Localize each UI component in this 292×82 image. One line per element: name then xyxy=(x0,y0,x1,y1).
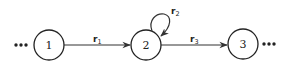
dot-icon xyxy=(19,43,22,46)
edge-r2-label-sub: 2 xyxy=(175,10,179,18)
state-diagram: 1 r1 2 r2 r3 3 xyxy=(0,0,292,82)
edge-1-to-2: r1 xyxy=(64,34,130,46)
node-2: 2 xyxy=(131,30,161,60)
right-ellipsis xyxy=(262,42,275,45)
edge-r1-label-sub: 1 xyxy=(97,38,101,46)
node-1: 1 xyxy=(34,30,64,60)
edge-2-to-3: r3 xyxy=(161,34,227,46)
dot-icon xyxy=(14,43,17,46)
node-1-label: 1 xyxy=(46,39,53,52)
left-ellipsis xyxy=(14,43,27,46)
edge-r1-label: r1 xyxy=(93,34,102,46)
edge-r3-label-sub: 3 xyxy=(194,38,198,46)
edge-r2-label: r2 xyxy=(171,6,180,18)
node-3-label: 3 xyxy=(240,38,247,51)
edge-2-self-loop: r2 xyxy=(151,6,180,36)
edge-r3-label: r3 xyxy=(190,34,199,46)
dot-icon xyxy=(24,43,27,46)
node-2-label: 2 xyxy=(143,39,150,52)
node-3: 3 xyxy=(228,29,258,59)
dot-icon xyxy=(262,42,265,45)
dot-icon xyxy=(267,42,270,45)
dot-icon xyxy=(272,42,275,45)
